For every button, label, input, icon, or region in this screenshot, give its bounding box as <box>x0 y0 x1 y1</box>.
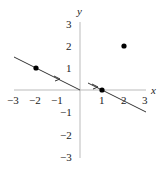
x-tick: −2 <box>29 94 41 106</box>
y-tick: −2 <box>60 129 72 141</box>
coordinate-diagram: x y −3 −2 −1 1 2 3 3 2 1 −1 −2 −3 <box>0 0 168 172</box>
x-tick: −3 <box>7 94 19 106</box>
x-tick: 1 <box>99 94 105 106</box>
y-tick: 1 <box>66 62 72 74</box>
x-axis-label: x <box>150 84 156 96</box>
point-neg2-1 <box>33 65 38 70</box>
y-axis-label: y <box>76 5 82 17</box>
x-tick: 3 <box>142 94 148 106</box>
point-1-0 <box>99 87 104 92</box>
y-tick: 2 <box>66 40 72 52</box>
point-2-2 <box>121 43 126 48</box>
y-tick: 3 <box>66 18 72 30</box>
y-tick: −1 <box>60 106 72 118</box>
x-tick: −1 <box>51 94 63 106</box>
y-tick: −3 <box>60 151 72 163</box>
